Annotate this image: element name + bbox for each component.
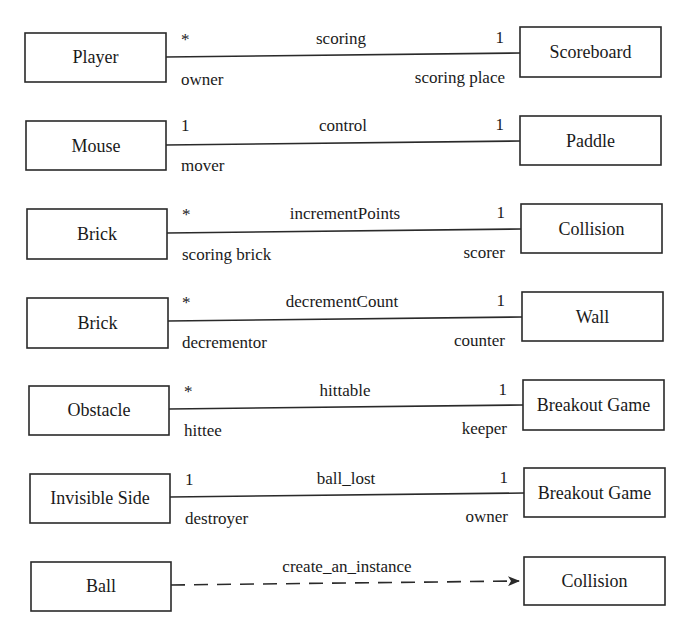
class-box-scoreboard[interactable]: Scoreboard [520, 27, 661, 77]
class-name: Obstacle [68, 400, 131, 420]
association-control: Mouse Paddle 1 control 1 mover [26, 115, 661, 175]
class-name: Collision [561, 571, 627, 591]
association-line [167, 229, 521, 233]
class-name: Player [73, 47, 119, 67]
class-box-breakout-game[interactable]: Breakout Game [524, 468, 665, 517]
left-role: mover [181, 156, 225, 175]
class-box-brick[interactable]: Brick [27, 209, 167, 259]
association-name: control [319, 116, 367, 135]
association-name: incrementPoints [290, 204, 400, 223]
left-role: destroyer [185, 509, 249, 528]
association-line [169, 405, 523, 409]
class-box-obstacle[interactable]: Obstacle [29, 386, 169, 435]
dependency-name: create_an_instance [282, 557, 411, 576]
left-role: scoring brick [182, 245, 272, 264]
class-name: Breakout Game [537, 395, 650, 415]
association-line [168, 317, 522, 321]
association-ball-lost: Invisible Side Breakout Game 1 ball_lost… [30, 468, 665, 528]
class-name: Paddle [566, 131, 615, 151]
class-name: Scoreboard [550, 42, 632, 62]
class-box-invisible-side[interactable]: Invisible Side [30, 474, 170, 523]
class-box-wall[interactable]: Wall [522, 292, 663, 341]
association-line [166, 141, 520, 145]
class-box-paddle[interactable]: Paddle [520, 116, 661, 165]
right-role: owner [466, 507, 509, 526]
class-name: Mouse [72, 136, 121, 156]
class-box-brick[interactable]: Brick [27, 298, 168, 348]
association-line [166, 53, 520, 57]
association-name: scoring [316, 29, 367, 48]
left-multiplicity: 1 [181, 116, 190, 135]
association-decrementcount: Brick Wall * decrementCount 1 decremento… [27, 291, 663, 352]
right-multiplicity: 1 [500, 468, 509, 487]
class-name: Collision [558, 219, 624, 239]
dependency-create-an-instance: Ball Collision create_an_instance [31, 557, 665, 611]
class-box-ball[interactable]: Ball [31, 562, 171, 611]
left-multiplicity: 1 [185, 470, 194, 489]
association-name: ball_lost [317, 469, 376, 488]
right-multiplicity: 1 [497, 203, 506, 222]
left-role: owner [181, 70, 224, 89]
right-role: counter [454, 331, 505, 350]
class-box-breakout-game[interactable]: Breakout Game [523, 380, 664, 430]
class-name: Invisible Side [50, 488, 150, 508]
right-multiplicity: 1 [499, 380, 508, 399]
class-name: Brick [77, 224, 117, 244]
association-scoring: Player Scoreboard * scoring 1 owner scor… [25, 27, 661, 89]
class-box-player[interactable]: Player [25, 33, 166, 82]
dependency-arrow [171, 581, 519, 585]
class-box-mouse[interactable]: Mouse [26, 121, 166, 170]
right-multiplicity: 1 [496, 28, 505, 47]
class-name: Wall [576, 307, 610, 327]
left-multiplicity: * [182, 205, 191, 224]
association-incrementpoints: Brick Collision * incrementPoints 1 scor… [27, 203, 662, 264]
left-role: hittee [184, 421, 222, 440]
left-multiplicity: * [184, 382, 193, 401]
right-role: scoring place [415, 68, 505, 87]
association-name: decrementCount [286, 292, 399, 311]
left-multiplicity: * [182, 293, 191, 312]
right-multiplicity: 1 [496, 115, 505, 134]
class-name: Ball [86, 576, 116, 596]
association-hittable: Obstacle Breakout Game * hittable 1 hitt… [29, 380, 664, 440]
class-box-collision[interactable]: Collision [521, 204, 662, 253]
class-name: Brick [78, 313, 118, 333]
class-name: Breakout Game [538, 483, 651, 503]
uml-association-diagram: Player Scoreboard * scoring 1 owner scor… [0, 0, 685, 631]
right-multiplicity: 1 [497, 291, 506, 310]
class-box-collision[interactable]: Collision [524, 557, 665, 605]
left-multiplicity: * [181, 30, 190, 49]
association-line [170, 493, 524, 497]
right-role: keeper [462, 419, 508, 438]
left-role: decrementor [182, 333, 267, 352]
right-role: scorer [463, 243, 505, 262]
association-name: hittable [320, 381, 371, 400]
